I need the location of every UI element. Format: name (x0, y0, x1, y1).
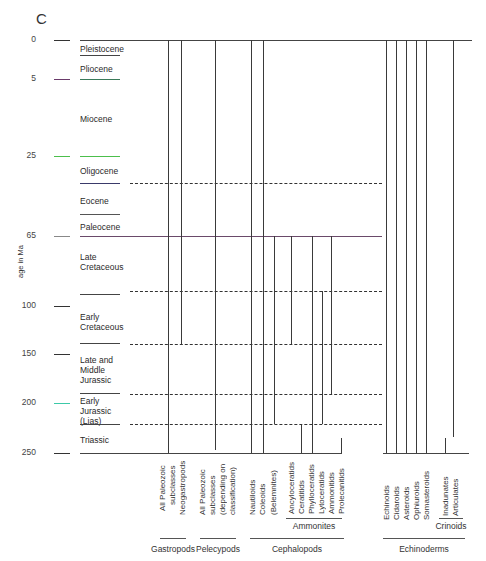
range-pelecypods (215, 40, 216, 450)
taxon-ceratitids: Ceratitids (297, 462, 307, 514)
taxon-lytoceratids: Lytoceratids (317, 462, 327, 514)
taxon-somasteroids: Somasteroids (422, 462, 432, 520)
taxon-ammonitids: Ammonitids (327, 462, 337, 514)
tick-label-0: 0 (14, 34, 36, 44)
range-articulates (453, 40, 454, 437)
group-echinoderms: Echinoderms (383, 544, 465, 554)
range-ammonitids (331, 236, 332, 394)
period-early-cretaceous: Early Cretaceous (80, 312, 140, 332)
taxon-inadunates: Inadunates (441, 462, 451, 516)
group-cephalopods: Cephalopods (250, 544, 344, 554)
period-paleocene: Paleocene (80, 222, 120, 232)
range-cidaroids (396, 40, 397, 453)
taxon-gastro-all-2: subclasses (168, 465, 178, 515)
group-crinoids: Crinoids (434, 521, 468, 531)
boundary-line (80, 294, 120, 295)
tick-0 (54, 40, 70, 41)
range-ceratitids (301, 425, 302, 453)
tick-200 (54, 403, 70, 404)
taxon-neogastropods: Neogastropods (178, 465, 188, 515)
range-ancyloceratids (291, 236, 292, 344)
tick-label-250: 250 (14, 447, 36, 457)
tick-25 (54, 156, 70, 157)
range-asteroids (406, 40, 407, 453)
period-late-cretaceous: Late Cretaceous (80, 252, 140, 272)
taxon-gastro-all-1: All Paleozoic (158, 465, 168, 515)
taxon-pelecy-3: (depending on (218, 465, 228, 515)
taxon-asteroids: Asteroids (402, 462, 412, 520)
tick-label-25: 25 (14, 150, 36, 160)
period-miocene: Miocene (80, 114, 112, 124)
range-lytoceratids (322, 291, 323, 424)
taxon-prolecanitids: Prolecanitids (337, 462, 347, 514)
range-ophiuroids (416, 40, 417, 453)
taxon-belemnites: (Belemnites) (269, 465, 279, 515)
top-line-0ma (80, 40, 472, 41)
period-pliocene: Pliocene (80, 64, 113, 74)
boundary-line (80, 424, 120, 425)
range-neogastropods (181, 40, 182, 344)
group-pelecypods: Pelecypods (192, 544, 244, 554)
period-oligocene: Oligocene (80, 166, 118, 176)
period-eocene: Eocene (80, 196, 109, 206)
gastropods-bracket (160, 538, 186, 539)
range-gastropods-paleozoic (168, 40, 169, 453)
period-early-jurassic: Early Jurassic (Lias) (80, 396, 125, 426)
range-prolecanitids (341, 438, 342, 453)
taxon-echinoids: Echinoids (382, 462, 392, 520)
ammonites-bracket (286, 518, 342, 519)
tick-label-150: 150 (14, 348, 36, 358)
range-nautiloids (251, 40, 252, 453)
period-late-middle-jurassic: Late and Middle Jurassic (80, 355, 130, 385)
tick-100 (54, 306, 70, 307)
taxon-pelecy-4: classification) (228, 465, 238, 515)
tick-5 (54, 79, 70, 80)
echinoderms-bracket (383, 538, 465, 539)
taxon-ancyloceratids: Ancyloceratids (287, 462, 297, 514)
taxon-pelecy-1: All Paleozoic (198, 465, 208, 515)
bottom-line-250ma-left (80, 453, 342, 454)
taxon-cidaroids: Cidaroids (392, 462, 402, 520)
tick-label-200: 200 (14, 397, 36, 407)
crinoids-bracket (439, 518, 463, 519)
boundary-line (80, 55, 120, 56)
boundary-line (80, 393, 120, 394)
taxon-ophiuroids: Ophiuroids (412, 462, 422, 520)
taxon-phylloceratids: Phylloceratids (307, 462, 317, 514)
panel-letter: C (36, 10, 47, 27)
period-triassic: Triassic (80, 435, 109, 445)
bottom-line-250ma-right (383, 453, 469, 454)
tick-label-65: 65 (14, 230, 36, 240)
range-inadunates (445, 438, 446, 453)
tick-label-100: 100 (14, 300, 36, 310)
cephalopods-bracket (250, 538, 344, 539)
range-echinoids (386, 40, 387, 453)
tick-250 (54, 453, 70, 454)
taxon-articulates: Articulates (451, 462, 461, 516)
tick-label-5: 5 (14, 73, 36, 83)
taxon-nautiloids: Nautiloids (248, 465, 258, 515)
range-phylloceratids (312, 236, 313, 453)
tick-150 (54, 354, 70, 355)
group-gastropods: Gastropods (148, 544, 198, 554)
line-65ma (80, 236, 382, 237)
y-axis-title: age in Ma (16, 245, 25, 278)
period-pleistocene: Pleistocene (80, 44, 124, 54)
group-ammonites: Ammonites (286, 521, 342, 531)
pelecypods-bracket (200, 538, 236, 539)
boundary-line (80, 214, 120, 215)
range-coleoids (263, 40, 264, 453)
boundary-line (80, 79, 120, 80)
boundary-line (80, 156, 120, 157)
range-somasteroids (426, 40, 427, 453)
boundary-line (80, 183, 120, 184)
taxon-pelecy-2: subclasses (208, 465, 218, 515)
tick-65 (54, 236, 70, 237)
boundary-line (80, 343, 120, 344)
taxon-coleoids: Coleoids (258, 465, 268, 515)
range-belemnites (274, 236, 275, 424)
